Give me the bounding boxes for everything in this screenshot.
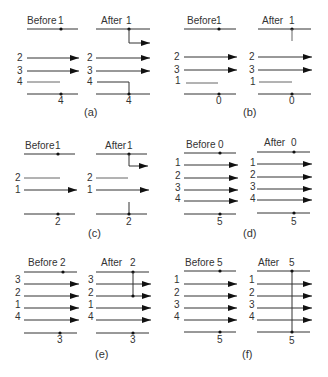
panel-d: Before 0 1 2 3 4 5 After 0 1 2 3 [175,137,312,239]
row-label: 2 [87,52,93,63]
row-label: 2 [87,172,93,183]
row-label: 4 [174,311,180,322]
top-node-label: 1 [126,15,132,26]
panel-f-after: After 5 1 2 3 4 5 [249,257,312,346]
panel-c: Before 1 2 1 2 After 1 2 1 2 [15,140,149,239]
row-label: 2 [175,170,181,181]
panel-e-before: Before 2 3 2 1 4 3 [15,257,79,345]
connector-dot [131,294,134,297]
bottom-node-label: 3 [130,334,136,345]
row-label: 1 [15,184,21,195]
top-node-label: 1 [216,15,222,26]
bottom-node-label: 5 [291,216,297,227]
top-node-dot [218,269,221,272]
top-node-label: 1 [289,15,295,26]
row-label: 2 [250,169,256,180]
bottom-node-label: 4 [58,95,64,106]
top-node-label: 5 [289,257,295,268]
row-label: 3 [88,274,94,285]
row-label: 3 [174,64,180,75]
top-node-dot [61,270,64,273]
row-label: 2 [174,287,180,298]
row-label: 1 [250,157,256,168]
row-label: 1 [175,75,181,86]
before-title: Before [187,15,217,26]
top-node-dot [218,151,221,154]
row-label: 1 [174,274,180,285]
panel-caption: (c) [88,227,101,239]
panel-a: Before 1 2 3 4 4 After 1 2 3 4 [17,15,150,118]
bottom-node-label: 5 [217,334,223,345]
panel-b: Before 1 2 3 1 0 After 1 2 3 1 [174,15,312,118]
panel-b-after: After 1 2 3 1 0 [249,15,312,106]
row-label: 3 [174,299,180,310]
row-label: 3 [249,64,255,75]
row-label: 2 [17,52,23,63]
row-label: 2 [15,287,21,298]
row-label: 1 [15,299,21,310]
bottom-node-dot [290,330,293,333]
top-node-label: 5 [217,257,223,268]
bottom-node-label: 3 [57,334,63,345]
top-node-label: 0 [291,137,297,148]
row-label: 1 [175,157,181,168]
row-label: 4 [175,193,181,204]
row-label: 3 [87,65,93,76]
panel-f-before: Before 5 1 2 3 4 5 [174,257,237,345]
panel-e: Before 2 3 2 1 4 3 After 2 3 2 [15,257,151,360]
panel-a-after: After 1 2 3 4 4 [87,15,150,106]
row-label: 1 [88,299,94,310]
after-title: After [258,257,280,268]
row-label: 3 [17,65,23,76]
row-label: 2 [174,51,180,62]
bottom-node-label: 5 [217,216,223,227]
row-label: 4 [15,311,21,322]
panel-caption: (e) [95,348,108,360]
bottom-node-label: 4 [126,95,132,106]
panel-f: Before 5 1 2 3 4 5 After 5 1 2 3 4 [174,257,312,360]
top-node-dot [59,27,62,30]
panel-caption: (b) [243,106,256,118]
bottom-node-label: 0 [216,95,222,106]
row-label: 1 [249,274,255,285]
after-title: After [105,140,127,151]
top-node-dot [290,269,293,272]
row-label: 4 [249,311,255,322]
before-title: Before [25,140,55,151]
top-node-label: 1 [127,140,133,151]
row-label: 2 [249,287,255,298]
before-title: Before [28,257,58,268]
bottom-node-label: 0 [289,95,295,106]
row-label: 3 [249,299,255,310]
bottom-node-label: 2 [55,216,61,227]
inserted-arrow [129,29,150,43]
row-label: 1 [250,76,256,87]
row-label: 4 [250,193,256,204]
after-title: After [264,137,286,148]
panel-caption: (d) [243,227,256,239]
top-node-dot [217,27,220,30]
panel-a-before: Before 1 2 3 4 4 [17,15,79,106]
top-node-dot [56,152,59,155]
before-title: Before [185,257,215,268]
panel-e-after: After 2 3 2 1 4 3 [88,257,151,345]
inserted-arrow [129,154,148,166]
linked-list-insertion-diagram: Before 1 2 3 4 4 After 1 2 3 4 [0,0,328,377]
top-node-label: 1 [55,140,61,151]
bottom-node-label: 2 [126,216,132,227]
row-label: 4 [88,311,94,322]
bottom-node-dot [292,211,295,214]
panel-c-after: After 1 2 1 2 [87,140,149,227]
row-label: 4 [87,76,93,87]
row-label: 3 [175,182,181,193]
panel-caption: (f) [242,348,252,360]
before-title: Before [186,139,216,150]
top-node-label: 2 [60,257,66,268]
panel-c-before: Before 1 2 1 2 [15,140,77,227]
after-title: After [262,15,284,26]
panel-d-after: After 0 1 2 3 4 5 [250,137,312,227]
before-title: Before [27,15,57,26]
row-label: 2 [249,51,255,62]
after-title: After [101,257,123,268]
after-title: After [101,15,123,26]
